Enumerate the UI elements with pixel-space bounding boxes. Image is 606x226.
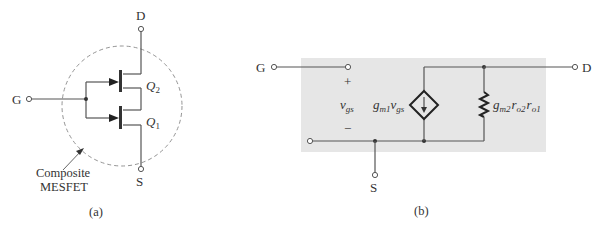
source-label-b: S <box>370 180 377 195</box>
drain-terminal <box>138 26 143 31</box>
vgs-minus-terminal <box>307 138 312 143</box>
gate-junction-dot <box>84 97 88 101</box>
drain-label-b: D <box>582 60 591 75</box>
gate-arrow-icon <box>109 78 119 86</box>
caption-b: (b) <box>414 204 429 218</box>
caption-a: (a) <box>89 205 103 219</box>
gate-arrow-icon <box>109 114 119 122</box>
vgs-plus-terminal <box>345 64 350 69</box>
source-terminal-b <box>372 172 377 177</box>
figure-b: G + vgs − gm1vgs gm2ro2ro1 D S <box>256 58 591 218</box>
gate-label: G <box>12 92 21 107</box>
annotation-line1: Composite <box>36 166 91 180</box>
source-label: S <box>136 174 143 189</box>
gate-terminal <box>26 96 31 101</box>
minus-sign: − <box>344 121 351 136</box>
q2-label: Q2 <box>146 78 160 95</box>
plus-sign: + <box>344 74 351 89</box>
circuit-diagram: D Q2 Q1 G S <box>0 0 606 226</box>
drain-terminal-b <box>572 64 577 69</box>
annotation-line2: MESFET <box>40 180 88 194</box>
q1-label: Q1 <box>146 114 160 131</box>
transistor-q2: Q2 <box>86 70 160 110</box>
gate-label-b: G <box>256 60 265 75</box>
drain-label: D <box>136 8 145 23</box>
source-terminal <box>138 166 143 171</box>
gate-terminal-b <box>271 64 276 69</box>
transistor-q1: Q1 <box>86 106 160 131</box>
figure-a: D Q2 Q1 G S <box>12 8 182 219</box>
